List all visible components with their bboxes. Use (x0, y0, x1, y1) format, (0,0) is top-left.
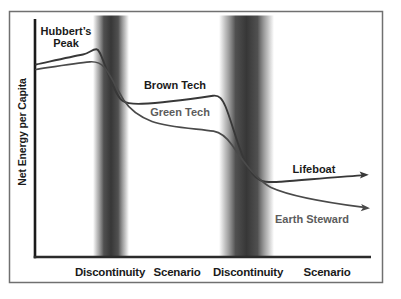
hubberts-peak-label-line2: Peak (41, 38, 92, 50)
earth-steward-label: Earth Steward (275, 214, 349, 226)
lifeboat-label: Lifeboat (293, 164, 336, 176)
outer-border (10, 12, 383, 283)
x-label-discontinuity-1: Discontinuity (75, 265, 145, 277)
green-tech-label: Green Tech (150, 107, 210, 119)
future-scenarios-diagram: Net Energy per Capita Hubbert’s Peak Bro… (0, 0, 401, 299)
discontinuity-band-2 (219, 16, 274, 257)
brown-tech-label: Brown Tech (144, 80, 206, 92)
x-label-scenario-1: Scenario (154, 265, 201, 277)
x-label-discontinuity-2: Discontinuity (213, 265, 283, 277)
y-axis-label: Net Energy per Capita (17, 78, 28, 186)
x-label-scenario-2: Scenario (304, 265, 351, 277)
hubberts-peak-label-line1: Hubbert’s (41, 26, 92, 38)
hubberts-peak-label: Hubbert’s Peak (41, 26, 92, 49)
